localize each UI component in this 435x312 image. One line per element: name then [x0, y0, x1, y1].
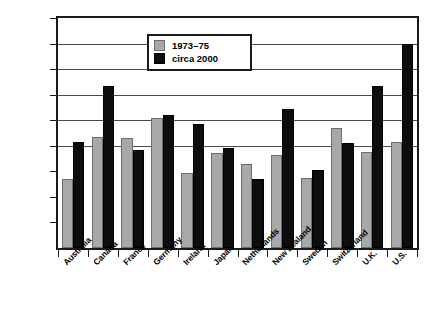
bar-ireland-series1	[193, 124, 204, 248]
bar-japan-series1	[223, 148, 234, 248]
legend-item-1: circa 2000	[154, 52, 245, 65]
bar-france-series0	[121, 138, 132, 248]
x-tick-mark-7	[267, 250, 268, 257]
x-tick-mark-0	[58, 250, 59, 257]
x-category-label-us: U.S.	[390, 249, 408, 267]
bar-ireland-series0	[181, 173, 192, 248]
x-category-label-uk: U.K.	[360, 248, 379, 267]
bar-canada-series0	[92, 137, 103, 248]
black-swatch-icon	[154, 53, 165, 64]
gray-swatch-icon	[154, 40, 165, 51]
bar-uk-series1	[372, 86, 383, 248]
chart-legend: 1973–75 circa 2000	[147, 34, 252, 71]
x-tick-mark-10	[357, 250, 358, 257]
bar-france-series1	[133, 150, 144, 248]
x-tick-mark-2	[118, 250, 119, 257]
legend-item-0: 1973–75	[154, 39, 245, 52]
legend-label-0: 1973–75	[172, 40, 209, 51]
bar-canada-series1	[103, 86, 114, 248]
bar-australia-series0	[62, 179, 73, 248]
bar-germany-series1	[163, 115, 174, 248]
x-tick-mark-6	[238, 250, 239, 257]
x-tick-mark-1	[88, 250, 89, 257]
x-tick-mark-3	[148, 250, 149, 257]
bar-chart: 2%4%6%8%10%12%14%16%18% AustraliaCanadaF…	[0, 0, 435, 312]
x-tick-mark-5	[208, 250, 209, 257]
bar-switzerland-series1	[342, 143, 353, 248]
bar-newzealand-series1	[282, 109, 293, 248]
x-tick-mark-4	[178, 250, 179, 257]
x-tick-mark-8	[297, 250, 298, 257]
legend-label-1: circa 2000	[172, 53, 218, 64]
bar-switzerland-series0	[331, 128, 342, 248]
x-tick-mark-9	[327, 250, 328, 257]
bar-netherlands-series0	[241, 164, 252, 248]
x-tick-mark-12	[417, 250, 418, 257]
bar-germany-series0	[151, 118, 162, 248]
bar-us-series0	[391, 142, 402, 248]
bar-japan-series0	[211, 153, 222, 248]
bar-us-series1	[402, 44, 413, 248]
bar-australia-series1	[73, 142, 84, 248]
x-tick-mark-11	[387, 250, 388, 257]
bar-sweden-series1	[312, 170, 323, 248]
